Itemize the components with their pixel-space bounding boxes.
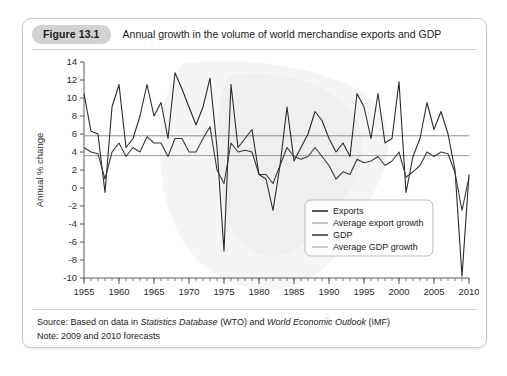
figure-source: Source: Based on data in Statistics Data… [37,315,472,329]
y-tick-label: 14 [66,56,77,67]
figure-note: Note: 2009 and 2010 forecasts [37,329,472,343]
x-tick-label: 1995 [353,286,374,297]
figure-footer: Source: Based on data in Statistics Data… [23,315,486,343]
y-tick-label: 8 [72,110,77,121]
y-tick-label: 12 [66,74,77,85]
legend-label: Average export growth [333,218,423,228]
x-tick-label: 2010 [458,286,479,297]
y-tick-label: -2 [69,200,77,211]
chart-legend: ExportsAverage export growthGDPAverage G… [305,200,433,256]
source-italic-imf: World Economic Outlook [267,317,366,327]
source-prefix: Source: Based on data in [37,317,141,327]
x-tick-label: 2005 [423,286,444,297]
source-italic-wto: Statistics Database [141,317,218,327]
x-tick-label: 1965 [143,286,164,297]
x-tick-label: 1980 [248,286,269,297]
x-tick-label: 1990 [318,286,339,297]
x-tick-label: 1975 [213,286,234,297]
y-tick-label: 10 [66,92,77,103]
y-tick-label: -6 [69,236,77,247]
y-tick-label: 0 [72,182,77,193]
y-tick-label: -8 [69,254,77,265]
legend-label: GDP [333,230,353,240]
x-tick-label: 1960 [108,286,129,297]
figure-card: Figure 13.1 Annual growth in the volume … [22,18,487,348]
x-tick-label: 1970 [178,286,199,297]
figure-title: Annual growth in the volume of world mer… [123,28,442,40]
x-tick-label: 1985 [283,286,304,297]
y-tick-label: 6 [72,128,77,139]
legend-label: Exports [333,206,364,216]
chart-area: -10-8-6-4-202468101214Annual % change195… [32,52,479,310]
y-tick-label: 4 [72,146,77,157]
line-chart: -10-8-6-4-202468101214Annual % change195… [32,52,479,310]
source-mid: (WTO) and [218,317,267,327]
footer-divider [32,309,477,310]
y-tick-label: -4 [69,218,77,229]
legend-label: Average GDP growth [333,242,418,252]
x-tick-label: 1955 [73,286,94,297]
plot-frame: -10-8-6-4-202468101214Annual % change195… [32,52,479,310]
figure-number-badge: Figure 13.1 [32,25,111,44]
y-axis-title: Annual % change [34,133,45,207]
figure-header: Figure 13.1 Annual growth in the volume … [23,19,486,49]
x-tick-label: 2000 [388,286,409,297]
y-tick-label: -10 [63,272,77,283]
header-divider [32,49,477,50]
source-suffix: (IMF) [366,317,390,327]
y-tick-label: 2 [72,164,77,175]
